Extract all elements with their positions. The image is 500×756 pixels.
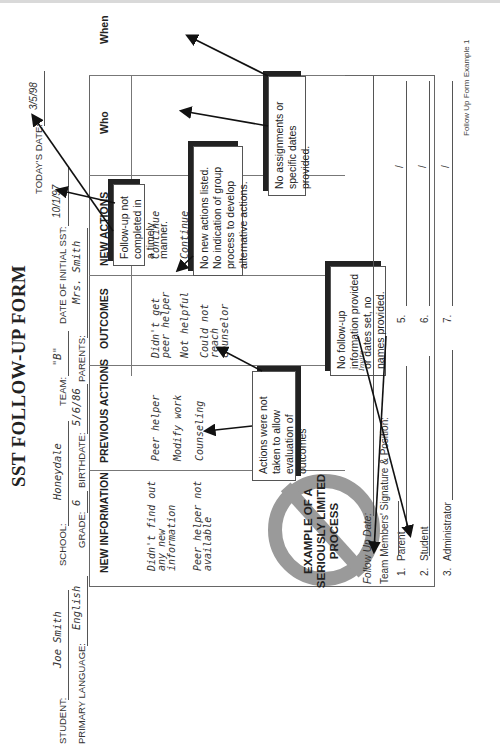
signature-num: 7. (442, 315, 453, 323)
signature-num: 1. (396, 568, 407, 576)
date-initial-sst-label: DATE OF INITIAL SST: (57, 226, 68, 324)
primary-language-label: PRIMARY LANGUAGE: (76, 643, 87, 744)
previous-action-item: Peer helper (151, 395, 161, 461)
signature-role-administrator: Administrator (442, 502, 453, 561)
signature-line-7[interactable] (452, 81, 453, 306)
parents-value[interactable]: Mrs. Smith (70, 241, 82, 304)
form-title: SST FOLLOW-UP FORM (8, 226, 30, 526)
slash: / (417, 165, 428, 168)
previous-action-item: Modify work (173, 395, 183, 461)
primary-language-value[interactable]: English (70, 586, 82, 630)
new-information-item: Peer helper not available (193, 476, 213, 571)
primary-language-line (87, 576, 88, 646)
col-header-outcomes: OUTCOMES (98, 288, 110, 349)
follow-up-form-page: SST FOLLOW-UP FORM TODAY'S DATE: 3/5/98 … (0, 0, 500, 756)
parents-label: PARENTS: (76, 335, 87, 382)
outcome-item: Didn't get peer helper (151, 278, 171, 358)
example-stamp-text: EXAMPLE OF A SERIOUSLY LIMITED PROCESS (302, 456, 341, 606)
col-divider (89, 75, 345, 76)
student-value[interactable]: Joe Smith (51, 611, 63, 668)
signature-line-6[interactable] (429, 81, 430, 306)
slash: / (440, 165, 451, 168)
school-line (68, 421, 69, 526)
date-initial-sst-value[interactable]: 10/1/97 (51, 185, 62, 218)
signature-num: 5. (396, 315, 407, 323)
previous-action-item: Counseling (195, 401, 205, 461)
callout-no-new-actions: No new actions listed. No indication of … (193, 146, 243, 276)
callout-no-assignments: No assignments or specific dates provide… (268, 76, 306, 196)
signature-line-2b[interactable] (429, 356, 430, 556)
team-label: TEAM: (57, 377, 68, 406)
team-value[interactable]: "B" (51, 347, 63, 366)
todays-date-line (44, 71, 45, 126)
team-line (68, 331, 69, 376)
col-header-who: Who (98, 111, 110, 134)
follow-up-date-label: Follow Up Date: (362, 513, 373, 584)
follow-up-date-value[interactable]: Invite (358, 351, 366, 371)
school-value[interactable]: Honeydale (51, 443, 63, 500)
todays-date-label: TODAY'S DATE: (33, 124, 44, 194)
signature-line-5[interactable] (406, 81, 407, 306)
follow-up-date-line (373, 76, 374, 516)
col-header-previous-actions: PREVIOUS ACTIONS (98, 359, 110, 463)
grade-value[interactable]: 6 (70, 500, 82, 506)
outcome-item: Not helpful (180, 292, 190, 358)
grade-line (87, 491, 88, 513)
parents-line (87, 228, 88, 338)
col-header-when: When (98, 15, 110, 44)
signature-line-2[interactable] (398, 501, 399, 556)
callout-timely: Follow-up not completed in a timely mann… (113, 184, 145, 266)
new-information-item: Didn't find out any new information (147, 476, 177, 571)
date-initial-sst-line (68, 166, 69, 226)
callout-not-taken: Actions were not taken to allow evaluati… (252, 371, 296, 481)
school-label: SCHOOL: (57, 523, 68, 566)
grade-label: GRADE: (76, 512, 87, 548)
signature-num: 2. (419, 568, 430, 576)
todays-date-value[interactable]: 3/5/98 (28, 82, 39, 110)
signature-line-1[interactable] (406, 366, 407, 526)
signature-num: 3. (442, 568, 453, 576)
col-header-new-information: NEW INFORMATION (98, 472, 110, 573)
slash: / (394, 165, 405, 168)
outcome-item: Could not reach counselor (200, 276, 230, 358)
signature-num: 6. (419, 315, 430, 323)
student-line (68, 590, 69, 700)
signatures-heading: Team Members' Signature & Position: (379, 417, 390, 584)
signature-line-3[interactable] (452, 350, 453, 500)
birthdate-value[interactable]: 5/6/86 (70, 388, 82, 426)
col-divider (89, 365, 345, 366)
col-header-new-actions: NEW ACTIONS (98, 192, 110, 266)
footer-label: Follow Up Form Example 1 (462, 40, 471, 136)
new-action-item: Continue (180, 211, 190, 259)
birthdate-label: BIRTHDATE: (76, 432, 87, 488)
birthdate-line (87, 384, 88, 434)
student-label: STUDENT: (57, 698, 68, 744)
